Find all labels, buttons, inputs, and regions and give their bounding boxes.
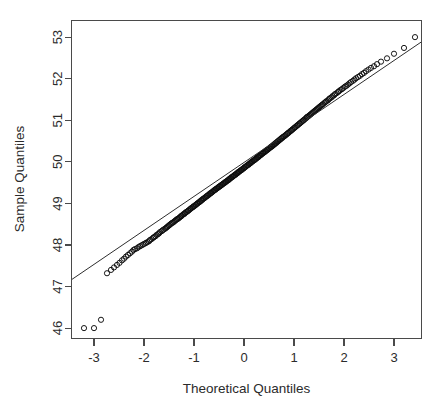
- y-tick-label: 48: [50, 238, 65, 252]
- x-tick-label: 1: [290, 350, 297, 365]
- y-tick-label: 53: [50, 30, 65, 44]
- y-axis-title: Sample Quantiles: [12, 125, 27, 232]
- x-tick-label: -3: [88, 350, 100, 365]
- y-tick-label: 50: [50, 155, 65, 169]
- qq-plot-figure: -3-2-10123 4647484950515253 Theoretical …: [0, 0, 441, 409]
- qq-plot-canvas: -3-2-10123 4647484950515253 Theoretical …: [0, 0, 441, 409]
- x-tick-label: 3: [390, 350, 397, 365]
- y-tick-label: 52: [50, 71, 65, 85]
- y-tick-label: 51: [50, 113, 65, 127]
- x-tick-label: -1: [188, 350, 200, 365]
- y-tick-label: 47: [50, 279, 65, 293]
- plot-background: [0, 0, 441, 409]
- x-tick-label: 0: [240, 350, 247, 365]
- x-tick-label: -2: [138, 350, 150, 365]
- y-tick-label: 49: [50, 196, 65, 210]
- x-axis-title: Theoretical Quantiles: [183, 381, 311, 396]
- x-tick-label: 2: [340, 350, 347, 365]
- y-tick-label: 46: [50, 321, 65, 335]
